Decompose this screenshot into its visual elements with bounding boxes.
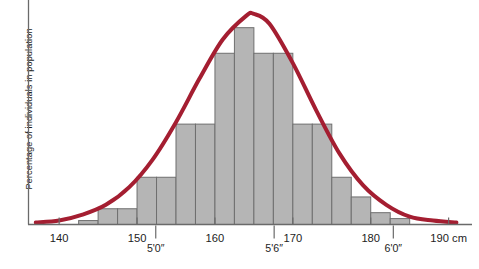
histogram-bar [351,197,370,225]
histogram-bar [176,124,195,224]
x-secondary-tick-label: 5'0″ [147,242,165,254]
histogram-bar [371,213,390,225]
chart-figure: Percentage of individuals in population … [0,0,479,269]
histogram-bar [195,124,214,224]
x-tick-label: 180 [361,232,380,244]
histogram-bar [215,53,234,224]
x-secondary-tick-label: 5'6″ [265,242,283,254]
x-secondary-tick-label: 6'0″ [385,242,403,254]
histogram-bar [390,219,409,225]
histogram-bar [273,53,292,224]
histogram-bar [157,177,176,224]
histogram-bar [254,53,273,224]
x-tick-label: 160 [206,232,225,244]
histogram-bar [98,209,117,225]
x-tick-label: 190 cm [430,232,467,244]
x-tick-label: 150 [128,232,147,244]
histogram-bars [79,28,410,225]
histogram-bar [293,124,312,224]
histogram-bar [312,124,331,224]
histogram-bar [137,177,156,224]
histogram-bar [118,209,137,225]
x-tick-label: 170 [283,232,302,244]
x-axis-secondary-ticks [156,226,394,239]
histogram-bar [332,177,351,224]
x-tick-label: 140 [50,232,69,244]
histogram-plot [0,0,479,269]
histogram-bar [234,28,253,225]
